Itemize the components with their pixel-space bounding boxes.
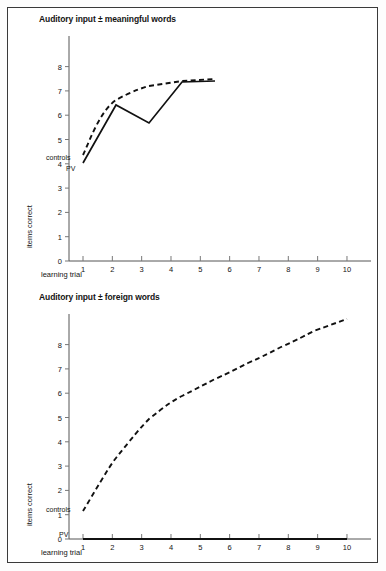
series-pv-meaningful-words — [83, 81, 215, 163]
x-tick-label: 3 — [140, 543, 144, 552]
series-label-controls-meaningful-words: controls — [46, 154, 71, 161]
y-tick-label: 6 — [58, 389, 62, 398]
x-tick-label: 1 — [81, 543, 85, 552]
y-tick-label: 7 — [58, 365, 62, 374]
y-tick-label: 1 — [58, 233, 62, 242]
y-tick-label: 5 — [58, 136, 62, 145]
x-tick-label: 8 — [286, 543, 290, 552]
y-ticks-foreign-words: 012345678 — [58, 341, 69, 544]
x-tick-label: 5 — [198, 543, 202, 552]
y-tick-label: 6 — [58, 111, 62, 120]
plot-area-foreign-words: 012345678 12345678910 controls PV — [8, 286, 379, 564]
series-controls-meaningful-words — [83, 79, 215, 155]
y-tick-label: 4 — [58, 438, 62, 447]
y-tick-label: 2 — [58, 208, 62, 217]
x-tick-label: 4 — [169, 265, 173, 274]
y-tick-label: 7 — [58, 87, 62, 96]
series-label-controls-foreign-words: controls — [46, 506, 71, 513]
y-tick-label: 3 — [58, 462, 62, 471]
x-tick-label: 4 — [169, 543, 173, 552]
x-tick-label: 2 — [110, 265, 114, 274]
y-tick-label: 3 — [58, 184, 62, 193]
x-tick-label: 7 — [257, 265, 261, 274]
x-tick-label: 9 — [316, 265, 320, 274]
plot-area-meaningful-words: 012345678 12345678910 controls PV — [8, 8, 379, 286]
series-label-pv-foreign-words: PV — [59, 531, 69, 538]
series-label-pv-meaningful-words: PV — [66, 165, 76, 172]
y-tick-label: 2 — [58, 486, 62, 495]
x-ticks-meaningful-words: 12345678910 — [81, 256, 351, 274]
x-ticks-foreign-words: 12345678910 — [81, 534, 351, 552]
x-tick-label: 10 — [343, 543, 351, 552]
y-tick-label: 0 — [58, 257, 62, 266]
chart-panel-meaningful-words: Auditory input ± meaningful words items … — [8, 8, 379, 286]
axes-foreign-words — [69, 314, 371, 539]
x-tick-label: 1 — [81, 265, 85, 274]
figure-frame: Auditory input ± meaningful words items … — [7, 7, 378, 563]
x-tick-label: 6 — [228, 543, 232, 552]
y-tick-label: 4 — [58, 160, 62, 169]
x-tick-label: 5 — [198, 265, 202, 274]
axes-meaningful-words — [69, 36, 371, 261]
x-tick-label: 6 — [228, 265, 232, 274]
x-tick-label: 9 — [316, 543, 320, 552]
x-tick-label: 10 — [343, 265, 351, 274]
chart-panel-foreign-words: Auditory input ± foreign words items cor… — [8, 286, 379, 564]
figure-page: Auditory input ± meaningful words items … — [0, 0, 386, 571]
y-tick-label: 8 — [58, 341, 62, 350]
x-tick-label: 2 — [110, 543, 114, 552]
x-tick-label: 7 — [257, 543, 261, 552]
y-tick-label: 5 — [58, 414, 62, 423]
series-controls-foreign-words — [83, 319, 347, 511]
y-tick-label: 8 — [58, 63, 62, 72]
x-tick-label: 8 — [286, 265, 290, 274]
x-tick-label: 3 — [140, 265, 144, 274]
